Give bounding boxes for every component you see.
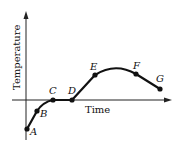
label-g: G — [156, 73, 164, 84]
point-a — [24, 126, 29, 131]
label-d: D — [67, 85, 76, 96]
label-f: F — [132, 60, 141, 71]
point-c — [50, 97, 55, 102]
point-b — [34, 108, 39, 113]
x-axis-label: Time — [85, 104, 110, 115]
point-f — [133, 71, 138, 76]
label-e: E — [89, 61, 98, 72]
label-b: B — [39, 108, 47, 119]
y-axis-arrow-icon — [24, 11, 29, 19]
point-e — [92, 72, 97, 77]
x-axis-arrow-icon — [164, 98, 172, 103]
y-axis-label: Temperature — [11, 24, 22, 90]
point-d — [69, 97, 74, 102]
label-c: C — [49, 85, 57, 96]
point-g — [157, 86, 162, 91]
label-a: A — [29, 126, 37, 137]
heating-curve — [27, 68, 160, 129]
temperature-time-diagram: A B C D E F G Time Temperature — [0, 0, 177, 145]
